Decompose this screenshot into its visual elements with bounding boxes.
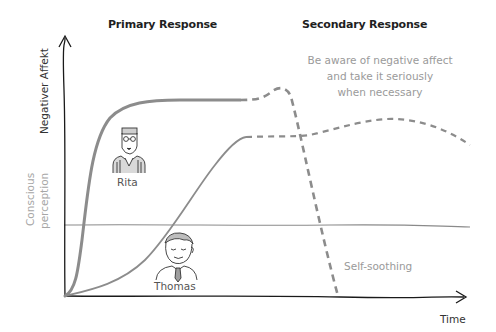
- thomas-curve-secondary: [246, 119, 470, 145]
- conscious-perception-threshold-line: [64, 225, 470, 227]
- y-axis-label: Negativer Affekt: [38, 48, 50, 134]
- self-soothing-label: Self-soothing: [344, 258, 412, 274]
- thomas-name-label: Thomas: [154, 280, 196, 292]
- secondary-response-heading: Secondary Response: [302, 18, 427, 31]
- awareness-note-line-3: when necessary: [300, 84, 460, 100]
- diagram-canvas: [0, 0, 496, 332]
- conscious-perception-label-line-1: Conscious: [24, 173, 36, 226]
- conscious-perception-label-line-2: perception: [38, 173, 50, 229]
- awareness-note-line-2: and take it seriously: [300, 68, 460, 84]
- x-axis-label: Time: [440, 313, 466, 325]
- x-axis: [64, 296, 464, 298]
- awareness-note: Be aware of negative affect and take it …: [300, 52, 460, 100]
- rita-name-label: Rita: [117, 176, 138, 188]
- rita-character-icon: [113, 128, 145, 173]
- y-axis: [63, 38, 65, 297]
- rita-curve-primary: [65, 100, 240, 296]
- primary-response-heading: Primary Response: [108, 18, 217, 31]
- rita-curve-secondary: [240, 88, 338, 296]
- awareness-note-line-1: Be aware of negative affect: [300, 52, 460, 68]
